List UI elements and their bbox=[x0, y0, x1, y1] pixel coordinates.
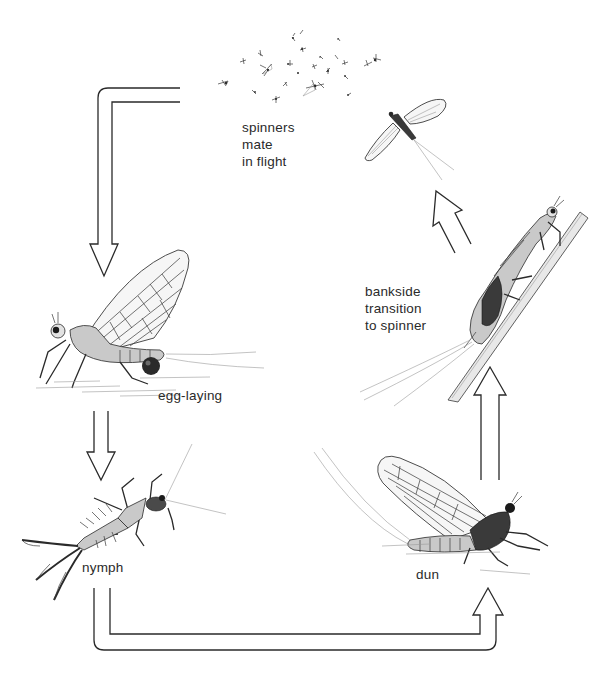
label-dun: dun bbox=[416, 566, 439, 583]
dun-illustration bbox=[314, 448, 548, 574]
label-nymph-line-1: nymph bbox=[82, 559, 124, 576]
label-spinners-line-3: in flight bbox=[242, 153, 295, 170]
label-dun-line-1: dun bbox=[416, 566, 439, 583]
arrow-bankside-to-spinners bbox=[433, 191, 471, 253]
label-bankside-line-2: transition bbox=[365, 300, 426, 317]
nymph-illustration bbox=[22, 444, 226, 600]
spinner-flying-illustration bbox=[365, 99, 454, 180]
label-spinners-line-2: mate bbox=[242, 136, 295, 153]
arrow-egglaying-to-nymph bbox=[87, 411, 115, 480]
egglaying-mayfly-illustration bbox=[36, 250, 264, 396]
label-egg-laying-line-1: egg-laying bbox=[158, 387, 222, 404]
arrow-dun-to-bankside bbox=[474, 367, 506, 480]
label-bankside-line-1: bankside bbox=[365, 283, 426, 300]
label-egg-laying: egg-laying bbox=[158, 387, 222, 404]
label-bankside: bankside transition to spinner bbox=[365, 283, 426, 334]
label-nymph: nymph bbox=[82, 559, 124, 576]
diagram-artwork: .ink { fill: none; stroke: #2a2a2a; stro… bbox=[0, 0, 608, 691]
label-spinners-line-1: spinners bbox=[242, 119, 295, 136]
mayfly-life-cycle-diagram: .ink { fill: none; stroke: #2a2a2a; stro… bbox=[0, 0, 608, 691]
arrow-spinners-to-egglaying bbox=[90, 88, 180, 276]
arrow-nymph-to-dun bbox=[94, 588, 503, 650]
label-spinners: spinners mate in flight bbox=[242, 119, 295, 170]
spinner-swarm-illustration bbox=[218, 30, 381, 103]
label-bankside-line-3: to spinner bbox=[365, 317, 426, 334]
